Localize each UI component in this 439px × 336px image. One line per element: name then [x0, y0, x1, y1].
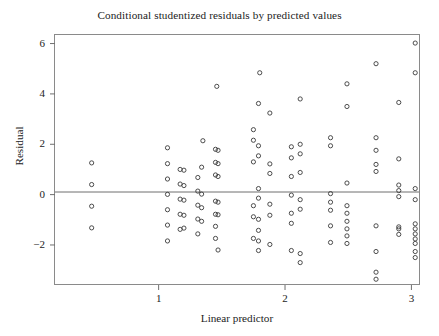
data-point [251, 160, 255, 164]
data-point [268, 213, 272, 217]
data-point [345, 181, 349, 185]
data-point [256, 144, 260, 148]
data-point [200, 206, 204, 210]
data-point [374, 277, 378, 281]
data-point [397, 100, 401, 104]
data-point [256, 228, 260, 232]
data-point [413, 241, 417, 245]
data-point [196, 175, 200, 179]
data-point [256, 186, 260, 190]
data-point [90, 161, 94, 165]
data-point [345, 227, 349, 231]
y-tick-label: 4 [19, 87, 45, 99]
data-point [374, 136, 378, 140]
scatter-plot-figure: Conditional studentized residuals by pre… [0, 0, 439, 336]
data-point [397, 183, 401, 187]
x-tick-label: 2 [275, 292, 295, 304]
data-point [298, 152, 302, 156]
data-points-group [90, 41, 418, 281]
data-point [345, 211, 349, 215]
data-point [165, 239, 169, 243]
data-point [251, 204, 255, 208]
data-point [413, 227, 417, 231]
y-tick-label: 2 [19, 137, 45, 149]
data-point [289, 221, 293, 225]
data-point [216, 248, 220, 252]
data-point [251, 138, 255, 142]
data-point [200, 192, 204, 196]
data-point [90, 182, 94, 186]
data-point [328, 144, 332, 148]
data-point [90, 226, 94, 230]
data-point [213, 224, 217, 228]
data-point [289, 211, 293, 215]
data-point [397, 157, 401, 161]
data-point [413, 198, 417, 202]
data-point [397, 232, 401, 236]
data-point [413, 71, 417, 75]
data-point [268, 202, 272, 206]
data-point [345, 219, 349, 223]
data-point [256, 217, 260, 221]
data-point [328, 136, 332, 140]
y-tick-label: −2 [19, 238, 45, 250]
plot-canvas [0, 0, 439, 336]
data-point [374, 162, 378, 166]
data-point [268, 111, 272, 115]
data-point [256, 239, 260, 243]
data-point [215, 84, 219, 88]
data-point [268, 242, 272, 246]
data-point [345, 234, 349, 238]
data-point [182, 226, 186, 230]
tick-marks [50, 44, 411, 290]
data-point [200, 219, 204, 223]
plot-frame [55, 35, 420, 285]
data-point [90, 204, 94, 208]
data-point [374, 270, 378, 274]
data-point [413, 222, 417, 226]
data-point [216, 148, 220, 152]
data-point [201, 139, 205, 143]
data-point [256, 196, 260, 200]
data-point [345, 104, 349, 108]
data-point [374, 249, 378, 253]
data-point [289, 156, 293, 160]
data-point [213, 147, 217, 151]
data-point [213, 199, 217, 203]
data-point [289, 248, 293, 252]
data-point [298, 261, 302, 265]
data-point [413, 232, 417, 236]
data-point [413, 255, 417, 259]
data-point [289, 174, 293, 178]
data-point [289, 193, 293, 197]
data-point [165, 146, 169, 150]
x-tick-label: 3 [401, 292, 421, 304]
data-point [165, 162, 169, 166]
y-tick-label: 0 [19, 188, 45, 200]
data-point [251, 215, 255, 219]
data-point [251, 128, 255, 132]
data-point [345, 204, 349, 208]
data-point [328, 200, 332, 204]
data-point [268, 162, 272, 166]
data-point [256, 154, 260, 158]
data-point [256, 101, 260, 105]
data-point [200, 165, 204, 169]
data-point [328, 208, 332, 212]
data-point [345, 241, 349, 245]
data-point [298, 170, 302, 174]
data-point [196, 189, 200, 193]
data-point [298, 142, 302, 146]
data-point [165, 223, 169, 227]
data-point [165, 177, 169, 181]
data-point [289, 145, 293, 149]
data-point [374, 169, 378, 173]
data-point [213, 236, 217, 240]
data-point [298, 207, 302, 211]
data-point [298, 251, 302, 255]
data-point [216, 200, 220, 204]
data-point [328, 240, 332, 244]
data-point [298, 97, 302, 101]
data-point [258, 71, 262, 75]
data-point [165, 208, 169, 212]
